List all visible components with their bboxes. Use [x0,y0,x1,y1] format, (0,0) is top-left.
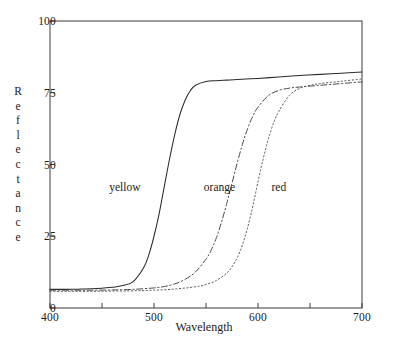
x-axis-label-wavelength: Wavelength [175,320,232,335]
y-axis-label-letter: R [14,84,22,99]
y-axis-label-letter: c [15,215,20,230]
plot-canvas [0,0,395,345]
plot-frame [50,21,362,308]
y-tick-label-75: 75 [44,87,56,99]
y-axis-label-letter: f [16,113,20,128]
x-tick-label-700: 700 [353,311,371,323]
axis-tick-marks [50,21,362,308]
y-axis-label-letter: e [15,99,20,114]
x-tick-label-600: 600 [249,311,267,323]
x-tick-label-500: 500 [145,311,163,323]
y-axis-label-letter: e [15,142,20,157]
y-axis-label-letter: a [15,186,20,201]
y-axis-label-letter: l [16,128,19,143]
y-tick-label-50: 50 [44,159,56,171]
y-tick-label-25: 25 [44,230,56,242]
series-annotation-yellow: yellow [109,181,140,193]
y-axis-label-reflectance: R e f l e c t a n c e [10,84,26,245]
x-tick-label-400: 400 [41,311,59,323]
series-annotation-orange: orange [204,181,235,193]
y-axis-label-letter: n [15,201,21,216]
y-axis-label-letter: c [15,157,20,172]
series-annotation-red: red [271,181,286,193]
y-axis-label-letter: t [16,172,19,187]
reflectance-chart-figure: 100 75 50 25 0 400 500 600 700 R e f l e… [0,0,395,345]
y-tick-label-100: 100 [38,15,56,27]
y-axis-label-letter: e [15,230,20,245]
